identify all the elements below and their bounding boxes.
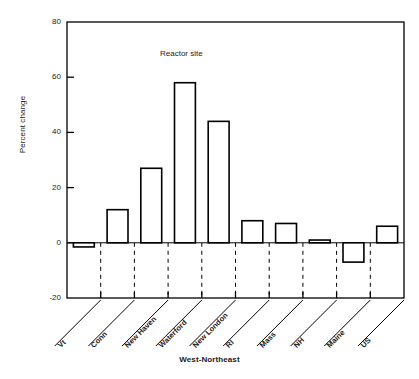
y-tick-label: 60 — [35, 72, 61, 81]
bar — [208, 121, 229, 242]
bar — [309, 240, 330, 243]
y-tick-label: 20 — [35, 183, 61, 192]
y-tick-label: 80 — [35, 17, 61, 26]
y-axis-label: Percent change — [18, 65, 27, 185]
bar — [242, 221, 263, 243]
bar — [377, 226, 398, 243]
bar — [175, 83, 196, 243]
bar — [107, 210, 128, 243]
bar — [343, 243, 364, 262]
y-tick-label: 0 — [35, 238, 61, 247]
y-tick-label: 40 — [35, 127, 61, 136]
plot-area — [0, 0, 419, 379]
y-tick-label: -20 — [35, 293, 61, 302]
bar — [276, 223, 297, 242]
reactor-site-annotation: Reactor site — [160, 49, 203, 58]
bar — [73, 243, 94, 247]
bar — [141, 168, 162, 243]
x-axis-label: West-Northeast — [0, 355, 419, 364]
bar-chart: Percent change West-Northeast Reactor si… — [0, 0, 419, 379]
